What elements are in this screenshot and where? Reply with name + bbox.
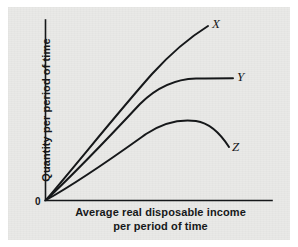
- curve-x: [46, 26, 208, 200]
- curve-label-x: X: [212, 16, 220, 32]
- x-axis-label-line2: per period of time: [48, 219, 273, 233]
- curve-label-y: Y: [237, 69, 244, 85]
- x-axis-label-line1: Average real disposable income: [48, 205, 273, 219]
- y-axis-label: Quantity per period of time: [40, 25, 52, 195]
- curve-label-z: Z: [232, 139, 239, 155]
- x-axis-label: Average real disposable income per perio…: [48, 205, 273, 233]
- origin-label: 0: [35, 196, 41, 207]
- chart-figure: Quantity per period of time Average real…: [0, 0, 298, 247]
- curve-z: [46, 120, 229, 200]
